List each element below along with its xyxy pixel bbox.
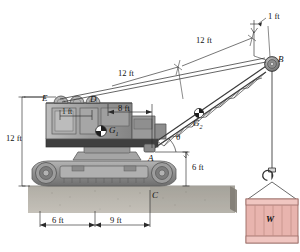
cg-marker-body [96,126,107,137]
load-label-W: W [266,215,274,224]
point-label-D: D [90,95,97,104]
point-label-C: C [152,191,158,200]
figure-canvas [0,0,300,252]
dim-cab-to-pivot: 8 ft [118,104,130,113]
ground-plane [28,186,237,213]
dim-pivot-height: 6 ft [192,163,204,172]
dim-cab-top-width: 1 ft [62,108,72,116]
point-label-B: B [278,55,284,64]
cg-label-body: G1 [109,126,119,137]
cg-marker-boom [194,108,203,117]
angle-label-theta: θ [176,133,180,142]
point-label-A: A [148,154,154,163]
dim-boom-upper-segment: 12 ft [196,36,212,45]
suspended-load [246,168,298,243]
machine-house [46,96,166,147]
point-label-E: E [42,94,48,103]
dim-boom-tip-offset: 1 ft [268,12,280,21]
crane-statics-figure: E D A B C G1 G2 θ W 12 ft 1 ft 8 ft 6 ft… [0,0,300,252]
dim-track-left: 6 ft [52,216,64,225]
dim-boom-lower-segment: 12 ft [118,69,134,78]
dim-track-right: 9 ft [110,216,122,225]
cg-label-boom: G2 [193,119,203,130]
dim-mast-height: 12 ft [6,134,22,143]
